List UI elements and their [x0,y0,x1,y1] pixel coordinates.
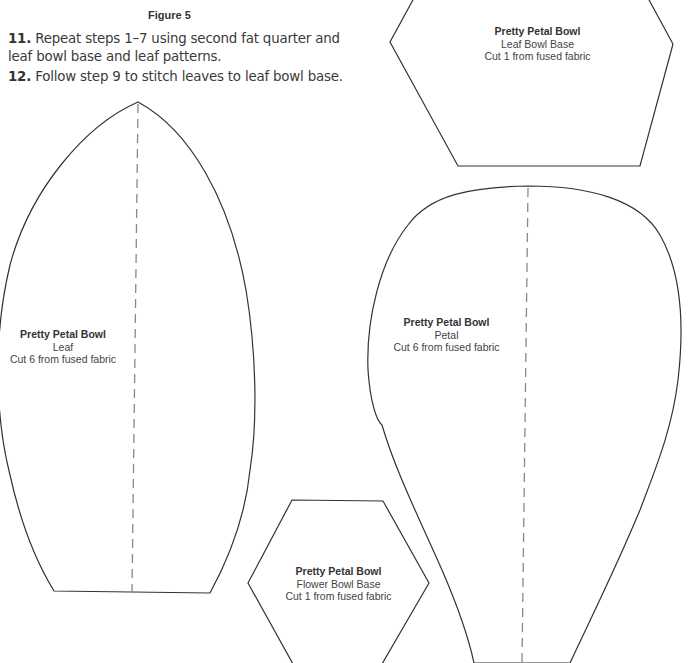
petal-label: Pretty Petal Bowl Petal Cut 6 from fused… [384,316,509,354]
leaf-label: Pretty Petal Bowl Leaf Cut 6 from fused … [0,328,126,366]
leaf-center-dashed-line [132,104,138,592]
pattern-title: Pretty Petal Bowl [0,328,126,341]
pattern-instruction: Cut 6 from fused fabric [384,341,509,354]
pattern-name: Leaf Bowl Base [455,38,620,51]
pattern-instruction: Cut 6 from fused fabric [0,353,126,366]
petal-center-dashed-line [522,188,528,663]
pattern-title: Pretty Petal Bowl [276,565,401,578]
pattern-instruction: Cut 1 from fused fabric [276,590,401,603]
pattern-instruction: Cut 1 from fused fabric [455,50,620,63]
pattern-title: Pretty Petal Bowl [384,316,509,329]
pattern-name: Leaf [0,341,126,354]
flower-bowl-base-label: Pretty Petal Bowl Flower Bowl Base Cut 1… [276,565,401,603]
pattern-name: Petal [384,329,509,342]
pattern-title: Pretty Petal Bowl [455,25,620,38]
leaf-bowl-base-label: Pretty Petal Bowl Leaf Bowl Base Cut 1 f… [455,25,620,63]
pattern-name: Flower Bowl Base [276,578,401,591]
